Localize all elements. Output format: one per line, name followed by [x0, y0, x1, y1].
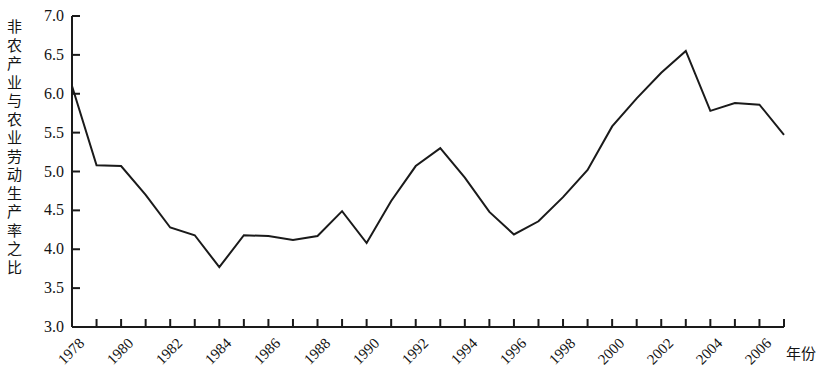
y-axis-ticks: [72, 16, 80, 327]
x-axis-title: 年份: [786, 342, 816, 363]
line-chart: 非农产业与农业劳动生产率之比 3.03.54.04.55.05.56.06.57…: [0, 0, 824, 382]
x-axis-ticks: [72, 319, 784, 327]
plot-area: [0, 0, 824, 382]
axis-lines: [72, 16, 784, 327]
data-series-line: [72, 51, 784, 267]
